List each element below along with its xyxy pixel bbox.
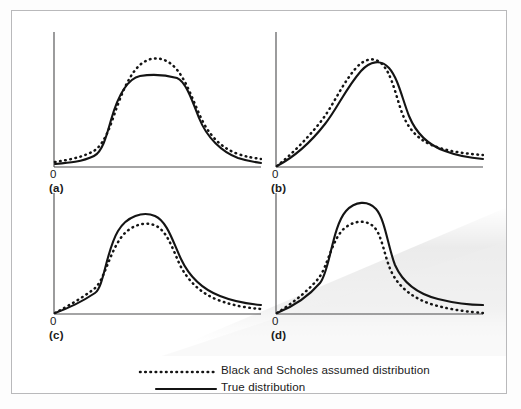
legend-swatch-solid-icon — [138, 381, 218, 394]
panel-d-plot — [264, 187, 484, 327]
legend: Black and Scholes assumed distribution T… — [12, 363, 506, 394]
legend-label-true: True distribution — [221, 380, 305, 393]
legend-swatch-dotted-icon — [138, 364, 218, 378]
panel-b: 0 (b) — [264, 26, 484, 174]
panel-b-plot — [264, 26, 484, 174]
panel-c: 0 (c) — [42, 187, 262, 327]
panel-a-zero-label: 0 — [50, 168, 56, 180]
panel-b-zero-label: 0 — [272, 168, 278, 180]
legend-label-black-scholes: Black and Scholes assumed distribution — [221, 363, 430, 376]
panel-d: 0 (d) — [264, 187, 484, 327]
panel-d-zero-label: 0 — [272, 315, 278, 327]
figure-frame: 0 (a) 0 (b) 0 (c) 0 (d) — [11, 10, 507, 394]
panel-a-plot — [42, 26, 262, 174]
legend-row-true: True distribution — [12, 380, 506, 394]
legend-row-black-scholes: Black and Scholes assumed distribution — [12, 363, 506, 380]
panel-d-curve-true — [277, 203, 483, 313]
panel-c-zero-label: 0 — [50, 315, 56, 327]
panel-d-label: (d) — [271, 329, 286, 341]
panel-c-curve-true — [55, 214, 261, 313]
panel-b-curve-black-scholes — [277, 59, 483, 166]
panel-d-curve-black-scholes — [277, 222, 483, 313]
panel-c-plot — [42, 187, 262, 327]
panel-c-label: (c) — [49, 329, 64, 341]
panel-a: 0 (a) — [42, 26, 262, 174]
